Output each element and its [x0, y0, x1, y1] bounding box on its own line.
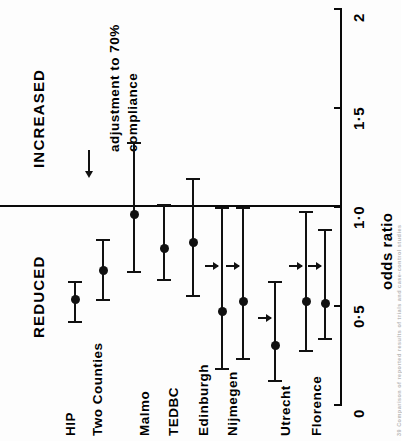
study-label-tedbc: TEDBC	[166, 387, 181, 436]
study-label-hip: HIP	[63, 412, 78, 436]
study-label-edinburgh: Edinburgh	[196, 364, 211, 436]
study-label-malmo: Malmo	[137, 391, 152, 436]
study-label-nijmegen: Nijmegen	[225, 371, 240, 436]
study-label-florence: Florence	[309, 376, 324, 436]
study-label-two-counties: Two Counties	[90, 343, 105, 437]
study-label-utrecht: Utrecht	[278, 385, 293, 436]
